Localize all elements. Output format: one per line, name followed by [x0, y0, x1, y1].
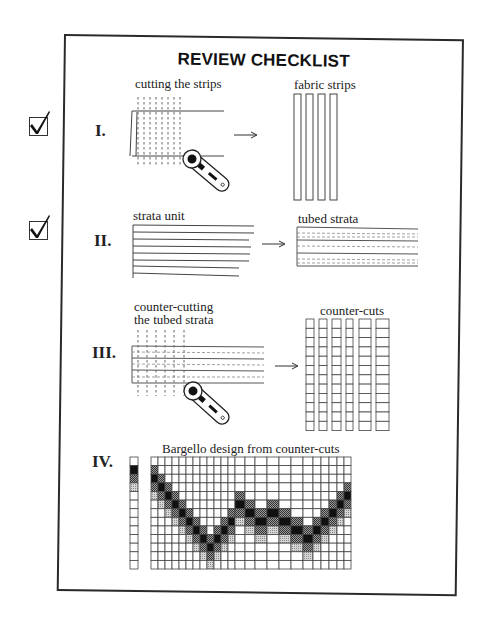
label-strata-unit: strata unit — [133, 209, 185, 222]
checkmark-icon — [29, 109, 51, 135]
checkbox-step-1[interactable] — [29, 117, 48, 136]
label-bargello-design: Bargello design from counter-cuts — [162, 442, 339, 455]
step-numeral-3: III. — [92, 343, 116, 363]
strata-unit-diagram — [132, 224, 262, 294]
rotary-cutter-icon — [180, 378, 233, 428]
right-arrow-icon — [234, 131, 258, 139]
label-tubed-strata: tubed strata — [298, 212, 358, 225]
step-numeral-2: II. — [94, 231, 111, 251]
step-numeral-1: I. — [95, 121, 106, 141]
bargello-key-strip — [129, 456, 141, 576]
rotary-cutter-icon — [179, 146, 233, 195]
checkmark-icon — [29, 213, 51, 239]
page-title: REVIEW CHECKLIST — [66, 48, 462, 73]
label-counter-cutting-line2: the tubed strata — [134, 313, 213, 326]
right-arrow-icon — [262, 240, 286, 248]
checkbox-step-2[interactable] — [29, 221, 48, 240]
step-numeral-4: IV. — [92, 452, 113, 472]
fabric-strips-diagram — [293, 93, 343, 203]
cutting-strips-diagram — [128, 95, 248, 215]
counter-cuts-diagram — [305, 318, 405, 433]
bargello-grid — [150, 456, 350, 574]
right-arrow-icon — [275, 362, 299, 370]
label-cutting-strips: cutting the strips — [135, 77, 222, 90]
label-counter-cuts: counter-cuts — [320, 304, 384, 317]
label-fabric-strips: fabric strips — [294, 78, 356, 91]
counter-cutting-diagram — [128, 328, 268, 438]
tubed-strata-diagram — [296, 226, 421, 271]
